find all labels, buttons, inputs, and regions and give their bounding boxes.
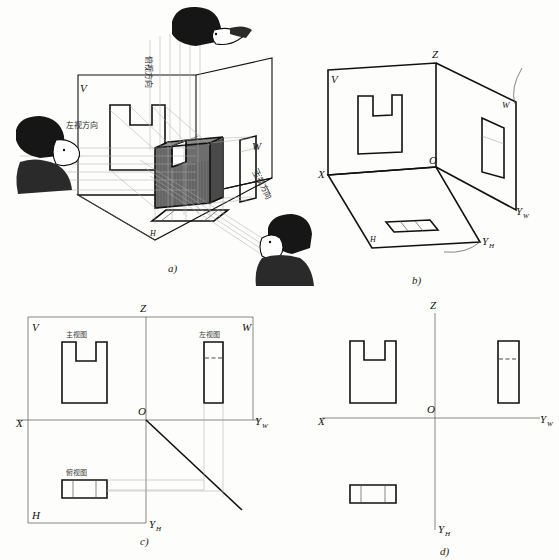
panel-d-label-Yh: Y H [438, 523, 451, 538]
panel-c-label-Z: Z [140, 302, 147, 314]
panel-c-label-H: H [31, 509, 41, 521]
panel-d-label-O: O [427, 403, 435, 415]
panel-a-top-view-direction: 俯视方向 [144, 56, 154, 88]
c-alignment-lines [107, 403, 223, 497]
top-observer [172, 7, 252, 46]
b-top-view [386, 220, 438, 232]
panel-c-top-view-name: 俯视图 [66, 468, 87, 477]
panel-c-caption: c) [140, 535, 149, 547]
panel-b-label-Yh: Y H [482, 235, 495, 250]
panel-c-label-Yh: Y H [149, 518, 162, 533]
c-miter-line [146, 420, 242, 510]
front-observer [256, 214, 314, 286]
svg-text:W: W [523, 212, 530, 220]
b-v-plane [328, 63, 436, 175]
c-side-view [204, 342, 223, 403]
panel-c-label-O: O [138, 405, 146, 417]
panel-b-label-X: X [317, 168, 326, 180]
panel-c-drawing: V Z W X O H Y W Y H 主视图 左视图 俯视图 [10, 295, 270, 555]
c-front-view [62, 342, 107, 403]
svg-text:H: H [444, 530, 451, 538]
panel-b-label-Yw: Y W [516, 205, 530, 220]
panel-d-drawing: Z X O Y W Y H [290, 295, 559, 560]
b-side-view-dashline [482, 136, 504, 144]
d-front-view [350, 341, 396, 403]
panel-c-front-view-name: 主视图 [66, 330, 87, 339]
panel-b: V Z W X O H Y W Y H b) [310, 30, 559, 290]
panel-b-label-O: O [429, 154, 437, 166]
panel-c-label-V: V [32, 321, 40, 333]
svg-text:H: H [488, 242, 495, 250]
panel-a-label-W: W [252, 140, 262, 152]
panel-d-caption: d) [440, 545, 449, 557]
d-top-view [350, 485, 396, 503]
panel-b-drawing: V Z W X O H Y W Y H [310, 30, 559, 290]
svg-text:W: W [547, 420, 554, 428]
panel-c-label-W: W [242, 321, 252, 333]
panel-d-label-Z: Z [430, 299, 437, 311]
panel-d-label-X: X [317, 415, 326, 427]
panel-c-left-view-name: 左视图 [199, 330, 220, 339]
panel-b-label-W: W [502, 100, 511, 110]
svg-text:W: W [262, 422, 269, 430]
panel-b-label-Z: Z [432, 48, 439, 60]
panel-a: V W H 俯视方向 左视方向 主视方向 [0, 0, 310, 290]
panel-b-label-V: V [331, 73, 339, 85]
panel-c-label-Yw: Y W [255, 415, 269, 430]
panel-b-caption: b) [412, 274, 421, 286]
panel-a-caption: a) [168, 262, 177, 274]
panel-d-label-Yw: Y W [540, 413, 554, 428]
b-side-view [482, 118, 504, 178]
d-side-view [498, 341, 519, 403]
panel-d: Z X O Y W Y H d) [290, 295, 559, 560]
figure-page: V W H 俯视方向 左视方向 主视方向 [0, 0, 559, 560]
svg-text:H: H [155, 525, 162, 533]
b-fold-arc-w [514, 68, 522, 104]
panel-c-label-X: X [15, 417, 24, 429]
b-front-view [358, 95, 402, 154]
panel-b-label-H: H [369, 235, 377, 244]
panel-c: V Z W X O H Y W Y H 主视图 左视图 俯视图 c) [10, 295, 270, 555]
panel-a-drawing: V W H 俯视方向 左视方向 主视方向 [0, 0, 310, 290]
c-top-view [62, 480, 107, 498]
panel-a-left-view-direction: 左视方向 [66, 120, 98, 130]
